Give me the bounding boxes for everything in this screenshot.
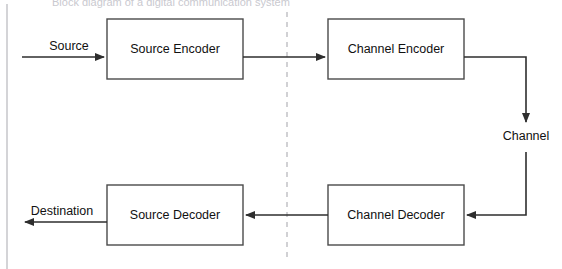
block-diagram-svg: Block diagram of a digital communication… <box>0 0 562 269</box>
page-title-fragment: Block diagram of a digital communication… <box>52 0 290 8</box>
source-label: Source <box>49 39 89 53</box>
block-label-source-encoder: Source Encoder <box>130 42 220 56</box>
block-label-channel-decoder: Channel Decoder <box>347 208 444 222</box>
channel-label: Channel <box>503 129 550 143</box>
block-label-channel-encoder: Channel Encoder <box>348 42 445 56</box>
connector-channel-encoder-to-channel <box>464 57 526 122</box>
destination-label: Destination <box>31 204 94 218</box>
block-label-source-decoder: Source Decoder <box>130 208 220 222</box>
connector-channel-to-channel-decoder <box>467 152 526 215</box>
diagram-canvas: Block diagram of a digital communication… <box>0 0 562 269</box>
